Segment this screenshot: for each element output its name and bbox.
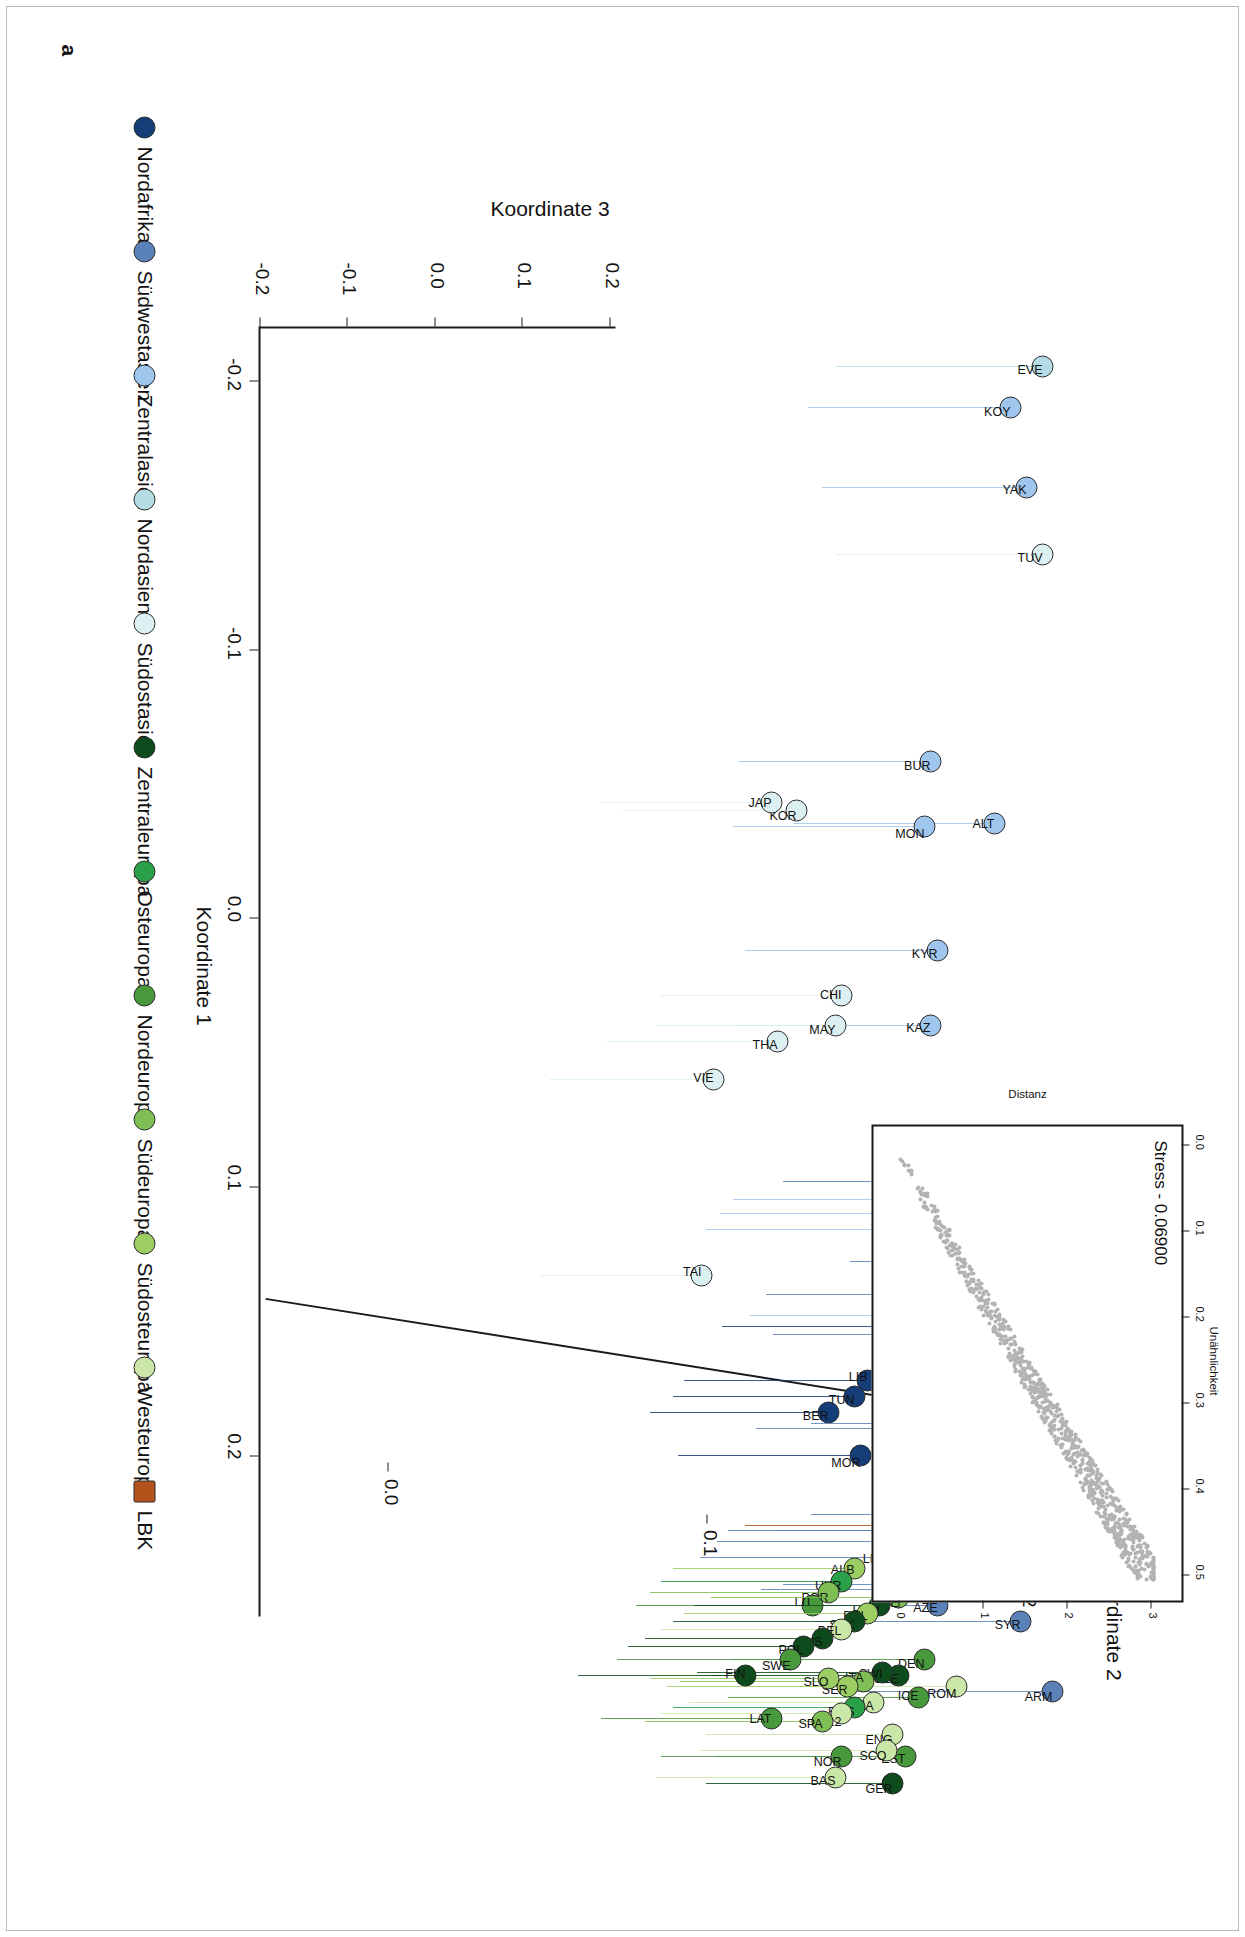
shepard-point (943, 1230, 947, 1234)
shepard-point (987, 1321, 991, 1325)
data-point-label: VIE (693, 1070, 713, 1084)
shepard-point (1009, 1336, 1013, 1340)
legend-swatch-circle-icon (133, 116, 155, 138)
y-tick-mark (706, 1514, 707, 1523)
shepard-point (1055, 1402, 1059, 1406)
shepard-point (1012, 1352, 1016, 1356)
shepard-point (986, 1297, 990, 1301)
shepard-point (981, 1313, 985, 1317)
point-drop-line (605, 1040, 776, 1041)
shepard-point (1124, 1520, 1128, 1524)
group-color-legend: NordafrikaSüdwestasienZentralasienNordas… (35, 116, 155, 1616)
shepard-point (992, 1302, 996, 1306)
shepard-point (1067, 1434, 1071, 1438)
shepard-point (1140, 1549, 1144, 1553)
shepard-point (1084, 1481, 1088, 1485)
data-point-label: BER (803, 1408, 829, 1422)
x-tick-label: -0.1 (222, 627, 244, 660)
shepard-point (918, 1197, 922, 1201)
shepard-point (906, 1163, 910, 1167)
data-point-label: GER (865, 1781, 892, 1795)
shepard-point (1128, 1524, 1132, 1528)
shepard-point (973, 1286, 977, 1290)
inset-y-tick-label: 0 (894, 1612, 906, 1618)
data-point-label: LAT (749, 1711, 771, 1725)
y-tick-label: 0.1 (698, 1530, 720, 1556)
shepard-point (1090, 1487, 1094, 1491)
rotated-figure-canvas: a Koordinate 1 Koordinate 2 Koordinate 3… (15, 16, 1230, 1921)
shepard-point (1099, 1481, 1103, 1485)
z-tick-label: 0.1 (513, 262, 535, 288)
shepard-point (1059, 1445, 1063, 1449)
shepard-point (1078, 1480, 1082, 1484)
data-point-label: TUV (1017, 550, 1042, 564)
shepard-point (944, 1245, 948, 1249)
z-tick-label: 0.0 (425, 262, 447, 288)
shepard-point (1117, 1509, 1121, 1513)
shepard-point (1136, 1560, 1140, 1564)
x-axis-title: Koordinate 1 (191, 906, 215, 1025)
data-point-label: SWE (761, 1658, 789, 1672)
y-tick-label: 0.0 (379, 1478, 401, 1504)
point-drop-line (683, 1379, 866, 1380)
shepard-point (1048, 1402, 1052, 1406)
shepard-point (1073, 1459, 1077, 1463)
shepard-point (1119, 1528, 1123, 1532)
legend-swatch-circle-icon (133, 1108, 155, 1130)
data-point-label: ALT (972, 816, 994, 830)
shepard-point (976, 1297, 980, 1301)
shepard-point (936, 1227, 940, 1231)
shepard-point (1031, 1399, 1035, 1403)
legend-label: Südeuropa (132, 1138, 156, 1241)
x-tick-mark (249, 649, 258, 650)
shepard-point (1077, 1452, 1081, 1456)
point-drop-line (744, 949, 936, 950)
shepard-point (1013, 1367, 1017, 1371)
shepard-point (1105, 1482, 1109, 1486)
data-point-label: SPA (798, 1716, 822, 1730)
x-tick-mark (249, 917, 258, 918)
shepard-point (937, 1219, 941, 1223)
shepard-point (1144, 1562, 1148, 1566)
point-drop-line (705, 1782, 891, 1783)
shepard-point (1045, 1392, 1049, 1396)
shepard-point (1123, 1548, 1127, 1552)
z-tick-label: -0.2 (250, 262, 272, 295)
point-drop-line (836, 554, 1042, 555)
shepard-point (998, 1326, 1002, 1330)
x-axis-line (258, 326, 260, 1616)
point-drop-line (694, 1605, 879, 1606)
data-point-label: AZE (912, 1601, 936, 1615)
point-drop-line (808, 406, 1010, 407)
shepard-point (1078, 1439, 1082, 1443)
shepard-point (1040, 1400, 1044, 1404)
shepard-point (998, 1341, 1002, 1345)
shepard-point (933, 1215, 937, 1219)
legend-swatch-circle-icon (133, 860, 155, 882)
shepard-point (1032, 1386, 1036, 1390)
shepard-point (922, 1193, 926, 1197)
inset-y-tick-mark (1066, 1600, 1067, 1608)
inset-y-axis-title: Distanz (1008, 1087, 1046, 1099)
shepard-point (1149, 1570, 1153, 1574)
shepard-point (995, 1332, 999, 1336)
shepard-point (1068, 1464, 1072, 1468)
shepard-point (1037, 1389, 1041, 1393)
shepard-point (1044, 1415, 1048, 1419)
z-axis-line (259, 326, 615, 328)
shepard-point (939, 1232, 943, 1236)
shepard-point (1144, 1577, 1148, 1581)
shepard-point (1123, 1552, 1127, 1556)
z-tick-mark (259, 317, 260, 326)
shepard-point (979, 1307, 983, 1311)
data-point-label: ICE (897, 1688, 918, 1702)
shepard-point (1013, 1342, 1017, 1346)
shepard-point (1032, 1381, 1036, 1385)
shepard-point (1091, 1501, 1095, 1505)
data-point-label: ARM (1024, 1690, 1052, 1704)
data-point-label: ROM (927, 1686, 956, 1700)
z-tick-mark (434, 317, 435, 326)
shepard-point (979, 1286, 983, 1290)
shepard-point (969, 1271, 973, 1275)
shepard-point (1130, 1546, 1134, 1550)
